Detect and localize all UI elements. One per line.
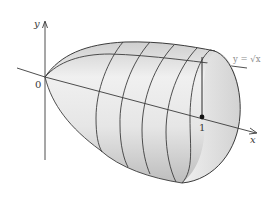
x-axis-left-segment — [17, 68, 45, 77]
y-axis — [43, 21, 48, 160]
solid-of-revolution-diagram: y 0 1 x y = √x — [0, 0, 275, 198]
point-x-1 — [200, 115, 205, 120]
x-axis-label: x — [250, 134, 256, 145]
curve-equation-label: y = √x — [232, 54, 261, 64]
y-axis-label: y — [33, 18, 40, 29]
x-tick-label: 1 — [199, 122, 205, 133]
origin-label: 0 — [35, 79, 41, 90]
